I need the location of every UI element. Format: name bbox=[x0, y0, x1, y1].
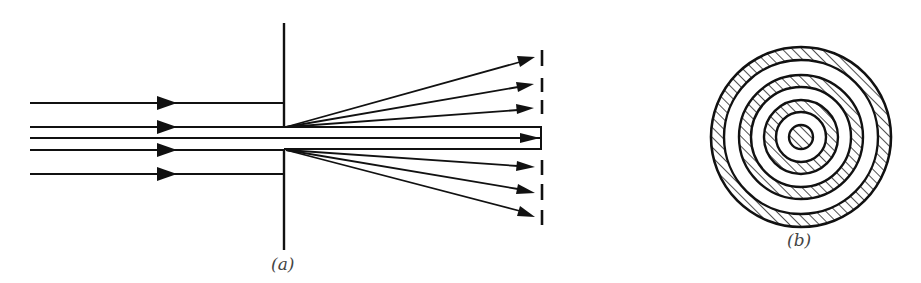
panel-b bbox=[711, 47, 891, 227]
diffracted-rays-top bbox=[286, 56, 535, 127]
diffracted-rays-bottom bbox=[286, 150, 535, 217]
panel-label-b: (b) bbox=[787, 230, 811, 250]
panel-label-a: (a) bbox=[271, 254, 294, 274]
arrow-icon bbox=[157, 120, 177, 134]
arrow-icon bbox=[157, 96, 177, 110]
arrow-icon bbox=[516, 82, 534, 92]
incident-rays bbox=[30, 96, 284, 181]
arrow-icon bbox=[517, 206, 535, 217]
central-beam bbox=[284, 126, 542, 150]
ring-pattern bbox=[711, 47, 891, 227]
arrow-icon bbox=[157, 143, 177, 157]
arrow-icon bbox=[520, 133, 540, 143]
arrow-icon bbox=[157, 167, 177, 181]
arrow-icon bbox=[516, 184, 535, 194]
diffraction-figure bbox=[0, 0, 921, 283]
arrow-icon bbox=[517, 56, 535, 67]
arrow-icon bbox=[516, 161, 535, 171]
panel-a bbox=[30, 23, 542, 250]
arrow-icon bbox=[516, 104, 534, 114]
